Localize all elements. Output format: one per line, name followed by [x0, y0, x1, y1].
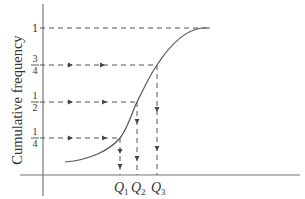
ogive-diagram: Cumulative frequency 1 3 4 1 2 1 4 Q 1 Q… [0, 0, 305, 199]
svg-text:2: 2 [33, 102, 38, 113]
arrow-right-icon [68, 100, 73, 105]
horizontal-guides [40, 28, 208, 138]
arrow-down-icon [118, 149, 123, 154]
arrow-down-icon [155, 146, 160, 151]
svg-text:3: 3 [161, 187, 166, 197]
tick-label-1-4: 1 4 [31, 126, 39, 149]
svg-text:Q: Q [151, 180, 161, 195]
svg-text:2: 2 [141, 187, 146, 197]
tick-label-1: 1 [32, 21, 38, 35]
arrow-right-icon [100, 63, 105, 68]
svg-text:1: 1 [33, 126, 38, 137]
label-q2: Q 2 [131, 180, 146, 197]
arrow-down-icon [135, 119, 140, 124]
arrow-down-icon [118, 164, 123, 169]
svg-text:3: 3 [33, 53, 38, 64]
tick-label-1-2: 1 2 [31, 90, 39, 113]
svg-text:1: 1 [124, 187, 129, 197]
svg-text:Q: Q [114, 180, 124, 195]
svg-text:4: 4 [33, 65, 38, 76]
svg-text:4: 4 [33, 138, 38, 149]
arrow-down-icon [135, 156, 140, 161]
svg-text:1: 1 [33, 90, 38, 101]
svg-text:Q: Q [131, 180, 141, 195]
arrow-markers [68, 63, 160, 170]
arrow-right-icon [68, 136, 73, 141]
label-q3: Q 3 [151, 180, 166, 197]
label-q1: Q 1 [114, 180, 129, 197]
arrow-down-icon [155, 107, 160, 112]
y-axis-title: Cumulative frequency [9, 35, 25, 165]
tick-label-3-4: 3 4 [31, 53, 39, 76]
arrow-right-icon [102, 100, 107, 105]
arrow-right-icon [102, 136, 107, 141]
arrow-right-icon [68, 63, 73, 68]
